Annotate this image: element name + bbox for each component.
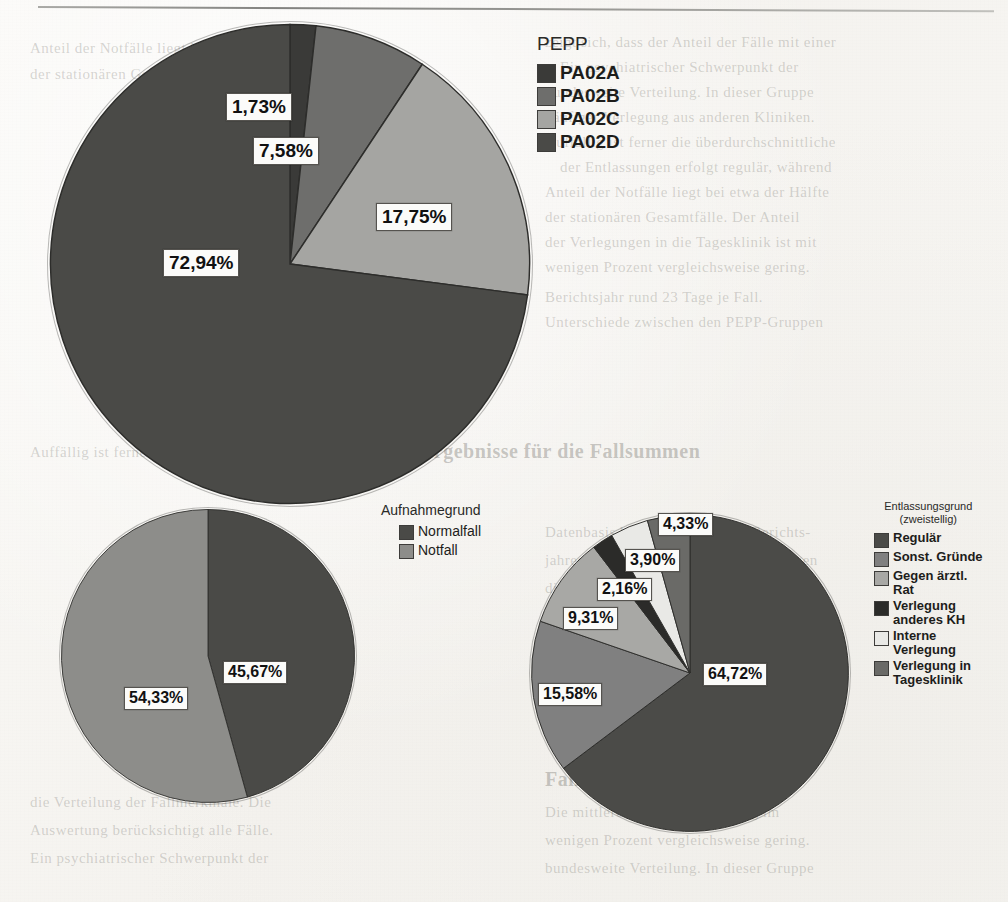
legend-pepp-title: PEPP	[537, 33, 620, 55]
ghost-line: Ein psychiatrischer Schwerpunkt der	[30, 846, 269, 871]
entlassung-value-regulaer: 64,72%	[703, 663, 767, 686]
legend-swatch-icon	[537, 87, 556, 106]
ghost-line: Auswertung berücksichtigt alle Fälle.	[30, 818, 273, 843]
legend-label: PA02D	[560, 131, 620, 152]
ghost-line: wenigen Prozent vergleichsweise gering.	[545, 255, 810, 280]
legend-label: Gegen ärztl. Rat	[893, 569, 967, 597]
legend-swatch-icon	[537, 110, 556, 129]
ghost-line: Anteil der Notfälle liegt bei etwa der H…	[545, 180, 829, 205]
legend-item-pa02b[interactable]: PA02B	[537, 85, 620, 106]
legend-label: PA02C	[560, 108, 620, 129]
legend-aufnahmegrund: Aufnahmegrund Normalfall Notfall	[381, 502, 481, 561]
legend-swatch-icon	[874, 601, 889, 616]
entlassung-value-gegen-rat: 9,31%	[563, 607, 618, 630]
legend-label: PA02A	[560, 62, 620, 83]
entlassung-value-verlegung-kh: 2,16%	[597, 578, 652, 601]
legend-swatch-icon	[874, 552, 889, 567]
page-top-rule	[38, 6, 994, 12]
entlassungsgrund-pie-graphic	[530, 513, 850, 833]
entlassung-value-tagesklinik: 4,33%	[658, 513, 713, 536]
legend-swatch-icon	[874, 533, 889, 548]
entlassung-value-sonstige: 15,58%	[538, 683, 602, 706]
legend-item-interne-verlegung[interactable]: Interne Verlegung	[874, 629, 983, 657]
chart-aufnahmegrund	[60, 508, 356, 804]
legend-swatch-icon	[874, 631, 889, 646]
legend-swatch-icon	[874, 571, 889, 586]
pepp-value-pa02b: 7,58%	[253, 137, 319, 165]
legend-swatch-icon	[874, 661, 889, 676]
legend-aufnahmegrund-title: Aufnahmegrund	[381, 502, 481, 518]
legend-label: Interne Verlegung	[893, 629, 956, 657]
legend-label: Normalfall	[418, 523, 481, 539]
legend-pepp: PEPP PA02A PA02B PA02C PA02D	[537, 33, 620, 154]
legend-label: Regulär	[893, 531, 941, 545]
legend-item-sonstige-gruende[interactable]: Sonst. Gründe	[874, 550, 983, 567]
legend-item-regulaer[interactable]: Regulär	[874, 531, 983, 548]
pepp-value-pa02a: 1,73%	[226, 93, 292, 121]
legend-swatch-icon	[399, 544, 414, 559]
ghost-line: Unterschiede zwischen den PEPP-Gruppen	[545, 310, 824, 335]
ghost-line: der stationären Gesamtfälle. Der Anteil	[545, 205, 800, 230]
legend-item-normalfall[interactable]: Normalfall	[399, 523, 481, 540]
pepp-value-pa02c: 17,75%	[376, 203, 452, 231]
legend-item-pa02c[interactable]: PA02C	[537, 108, 620, 129]
chart-entlassungsgrund	[530, 513, 850, 833]
legend-swatch-icon	[537, 64, 556, 83]
legend-label: PA02B	[560, 85, 620, 106]
ghost-line: bundesweite Verteilung. In dieser Gruppe	[545, 856, 814, 881]
legend-item-pa02d[interactable]: PA02D	[537, 131, 620, 152]
ghost-line: der Verlegungen in die Tagesklinik ist m…	[545, 230, 817, 255]
scanned-page: zeigt sich, dass der Anteil der Fälle mi…	[0, 0, 1008, 902]
legend-swatch-icon	[399, 525, 414, 540]
entlassung-value-interne: 3,90%	[625, 549, 680, 572]
aufnahmegrund-pie-graphic	[60, 508, 356, 804]
legend-entlassungsgrund: Entlassungsgrund (zweistellig) Regulär S…	[874, 500, 983, 689]
ghost-line: der Entlassungen erfolgt regulär, währen…	[560, 155, 832, 180]
legend-item-verlegung-anderes-kh[interactable]: Verlegung anderes KH	[874, 599, 983, 627]
legend-item-gegen-aerztl-rat[interactable]: Gegen ärztl. Rat	[874, 569, 983, 597]
pepp-value-pa02d: 72,94%	[163, 249, 239, 277]
legend-label: Verlegung anderes KH	[893, 599, 965, 627]
legend-item-pa02a[interactable]: PA02A	[537, 62, 620, 83]
legend-item-notfall[interactable]: Notfall	[399, 542, 481, 559]
legend-entlassungsgrund-title: Entlassungsgrund (zweistellig)	[874, 500, 983, 526]
legend-swatch-icon	[537, 133, 556, 152]
legend-label: Notfall	[418, 542, 458, 558]
legend-label: Sonst. Gründe	[893, 550, 983, 564]
legend-label: Verlegung in Tagesklinik	[893, 659, 971, 687]
ghost-line: Berichtsjahr rund 23 Tage je Fall.	[545, 285, 763, 310]
aufnahme-value-notfall: 54,33%	[124, 687, 188, 710]
legend-item-verlegung-tagesklinik[interactable]: Verlegung in Tagesklinik	[874, 659, 983, 687]
aufnahme-value-normalfall: 45,67%	[223, 661, 287, 684]
